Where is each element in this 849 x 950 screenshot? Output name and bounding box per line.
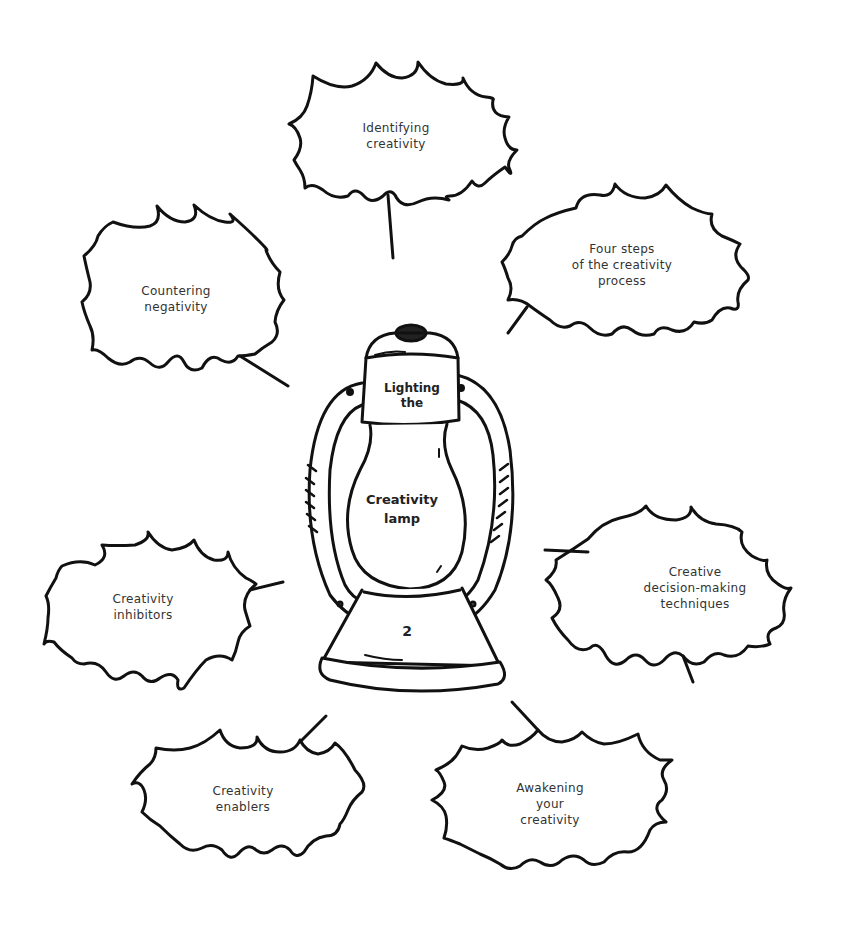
bubble-label-inhibitors: Creativity inhibitors: [112, 591, 173, 623]
bubble-label-identifying: Identifying creativity: [362, 120, 429, 152]
lamp-main-label: Creativity lamp: [366, 490, 438, 528]
bubble-label-enablers: Creativity enablers: [212, 783, 273, 815]
lamp-number-2: 2: [402, 623, 412, 639]
bubble-label-awakening: Awakening your creativity: [516, 780, 584, 828]
bubble-label-decision: Creative decision-making techniques: [644, 564, 747, 612]
bubble-label-countering: Countering negativity: [141, 283, 211, 315]
bubble-identifying: [289, 62, 517, 258]
bubble-label-four-steps: Four steps of the creativity process: [572, 241, 672, 289]
lamp-top-label: Lighting the: [384, 381, 440, 411]
